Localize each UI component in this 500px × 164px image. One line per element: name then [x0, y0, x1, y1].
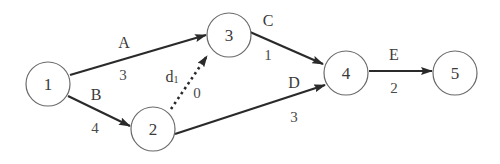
edge-A: A 3 — [70, 34, 206, 84]
edge-d1-dummy: d1 0 — [166, 56, 208, 109]
node-3-label: 3 — [225, 26, 234, 45]
edge-E: E 2 — [369, 46, 432, 97]
edge-B-duration: 4 — [91, 120, 99, 136]
node-4-label: 4 — [342, 64, 351, 83]
edge-E-duration: 2 — [390, 80, 398, 96]
edge-d1-activity: d1 — [166, 68, 179, 85]
edge-A-activity: A — [118, 34, 130, 51]
network-diagram: A 3 B 4 d1 0 C 1 D 3 E 2 — [0, 0, 500, 164]
edge-C: C 1 — [250, 12, 323, 65]
edge-D-activity: D — [288, 74, 300, 91]
node-5-label: 5 — [451, 64, 460, 83]
node-2-label: 2 — [149, 120, 158, 139]
edge-d1-duration: 0 — [193, 85, 201, 101]
edge-D-duration: 3 — [290, 109, 298, 125]
edge-A-duration: 3 — [119, 67, 127, 83]
node-2: 2 — [131, 107, 175, 151]
node-4: 4 — [324, 51, 368, 95]
edge-C-activity: C — [263, 12, 274, 29]
node-5: 5 — [433, 51, 477, 95]
edge-C-duration: 1 — [264, 47, 272, 63]
node-3: 3 — [207, 13, 251, 57]
edge-D: D 3 — [175, 74, 325, 135]
edge-B: B 4 — [68, 86, 130, 137]
edge-B-activity: B — [91, 86, 102, 103]
node-1: 1 — [26, 62, 70, 106]
node-1-label: 1 — [44, 75, 53, 94]
edge-E-activity: E — [389, 46, 399, 63]
